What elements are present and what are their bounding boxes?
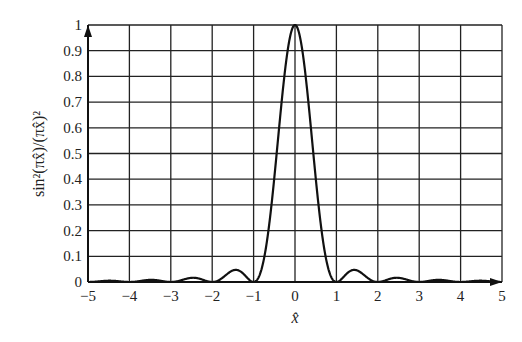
y-tick-label: 0.7 (63, 94, 82, 110)
x-tick-label: −5 (80, 288, 96, 304)
grid (88, 25, 502, 282)
y-tick-label: 0.1 (63, 248, 82, 264)
y-axis-label: sin²(πx̂)/(πx̂)² (30, 111, 48, 197)
y-tick-label: 0.2 (63, 223, 82, 239)
y-tick-label: 1 (75, 17, 83, 33)
y-tick-label: 0.4 (63, 171, 82, 187)
y-tick-label: 0.6 (63, 120, 82, 136)
y-axis-arrow-icon (84, 25, 92, 37)
y-tick-label: 0.5 (63, 146, 82, 162)
axes (84, 25, 502, 286)
x-tick-label: −4 (121, 288, 137, 304)
x-tick-label: −2 (204, 288, 220, 304)
x-tick-labels: −5−4−3−2−1012345 (80, 288, 506, 304)
x-tick-label: 5 (498, 288, 506, 304)
x-tick-label: 2 (374, 288, 382, 304)
y-tick-label: 0.9 (63, 43, 82, 59)
x-tick-label: 1 (333, 288, 341, 304)
x-tick-label: −1 (246, 288, 262, 304)
x-tick-label: 4 (457, 288, 465, 304)
x-tick-label: 0 (291, 288, 299, 304)
y-tick-label: 0.3 (63, 197, 82, 213)
y-tick-label: 0.8 (63, 68, 82, 84)
y-tick-labels: 00.10.20.30.40.50.60.70.80.91 (63, 17, 82, 290)
x-tick-label: −3 (163, 288, 179, 304)
chart: 00.10.20.30.40.50.60.70.80.91 −5−4−3−2−1… (0, 0, 522, 342)
x-axis-arrow-icon (490, 278, 502, 286)
x-tick-label: 3 (415, 288, 423, 304)
x-axis-label: x̂ (290, 309, 298, 326)
